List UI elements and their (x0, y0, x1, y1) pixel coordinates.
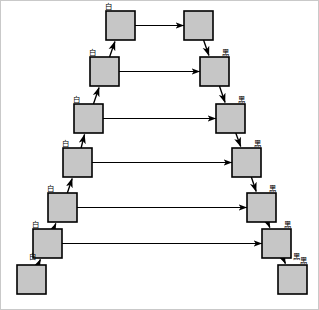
node-box[interactable] (63, 148, 92, 177)
white-edge-label: 白 (32, 220, 39, 229)
node-box[interactable] (90, 57, 119, 86)
white-edge-label: 白 (105, 2, 112, 11)
edge-arrow (204, 40, 209, 56)
white-edge-label: 白 (47, 184, 54, 193)
node-group (17, 11, 307, 294)
node-box[interactable] (216, 104, 245, 133)
node-box[interactable] (33, 229, 62, 258)
white-edge-label: 白 (73, 95, 80, 104)
node-box[interactable] (278, 265, 307, 294)
edge-label-group: 白白白白白白黑黑黑黑黑黑白黑 (29, 2, 309, 265)
black-edge-label: 黑 (222, 48, 230, 57)
edge-arrow (54, 223, 56, 229)
black-edge-label: 黑 (300, 256, 308, 265)
node-box[interactable] (48, 193, 77, 222)
edge-arrow (67, 178, 72, 193)
node-box[interactable] (184, 11, 213, 40)
white-edge-label: 白 (89, 48, 96, 57)
white-edge-label: 白 (62, 139, 69, 148)
edge-arrow (251, 177, 256, 192)
black-edge-label: 黑 (254, 139, 262, 148)
edge-arrow (283, 258, 286, 264)
node-box[interactable] (17, 265, 46, 294)
node-box[interactable] (232, 148, 261, 177)
node-box[interactable] (74, 104, 103, 133)
black-edge-label: 黑 (269, 184, 277, 193)
node-box[interactable] (247, 193, 276, 222)
edge-arrow (236, 133, 241, 147)
diagram-svg: 白白白白白白黑黑黑黑黑黑白黑 (1, 1, 319, 310)
terminal-label: 黑 (293, 252, 301, 261)
node-box[interactable] (106, 11, 135, 40)
edge-arrow (268, 222, 270, 228)
black-edge-label: 黑 (238, 95, 246, 104)
diagram-canvas: 白白白白白白黑黑黑黑黑黑白黑 (0, 0, 319, 310)
edge-arrow (219, 86, 225, 103)
edge-arrow (38, 259, 41, 265)
terminal-label: 白 (29, 252, 36, 261)
node-box[interactable] (262, 229, 291, 258)
edge-arrow (81, 134, 84, 148)
edge-arrow (93, 87, 99, 104)
node-box[interactable] (200, 57, 229, 86)
black-edge-label: 黑 (284, 220, 292, 229)
edge-arrow (110, 41, 115, 57)
